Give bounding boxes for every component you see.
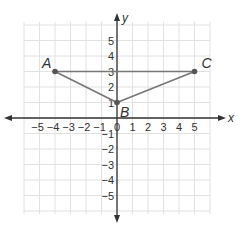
y-tick-label: −3 (101, 159, 114, 171)
x-tick-label: −2 (78, 121, 91, 133)
x-tick-label: −4 (47, 121, 60, 133)
x-tick-label: 1 (129, 121, 135, 133)
x-tick-label: 5 (191, 121, 197, 133)
x-tick-label: 4 (176, 121, 182, 133)
axes (4, 13, 226, 223)
point-label-A: A (41, 55, 51, 71)
y-tick-label: −5 (101, 190, 114, 202)
x-tick-label: −3 (62, 121, 75, 133)
y-tick-label: 2 (108, 81, 114, 93)
x-tick-label: 0 (114, 121, 120, 133)
point-C (192, 69, 198, 75)
x-tick-label: −5 (31, 121, 44, 133)
y-axis-down-arrow-icon (114, 215, 120, 223)
point-A (52, 69, 58, 75)
point-label-C: C (202, 55, 213, 71)
x-axis-right-arrow-icon (218, 115, 226, 121)
y-axis-label: y (121, 11, 129, 25)
x-tick-label: 2 (145, 121, 151, 133)
y-tick-label: 4 (108, 50, 114, 62)
y-tick-label: −4 (101, 174, 114, 186)
x-axis-label: x (227, 111, 235, 125)
y-tick-label: 5 (108, 35, 114, 47)
x-axis-left-arrow-icon (4, 115, 12, 121)
point-B (114, 100, 120, 106)
x-tick-label: 3 (160, 121, 166, 133)
y-tick-label: −1 (101, 128, 114, 140)
point-label-B: B (120, 104, 129, 120)
y-axis-up-arrow-icon (114, 13, 120, 21)
coordinate-plane: −5−4−3−2−101234512345−1−2−3−4−5 ABC x y (0, 0, 237, 230)
y-tick-label: −2 (101, 143, 114, 155)
